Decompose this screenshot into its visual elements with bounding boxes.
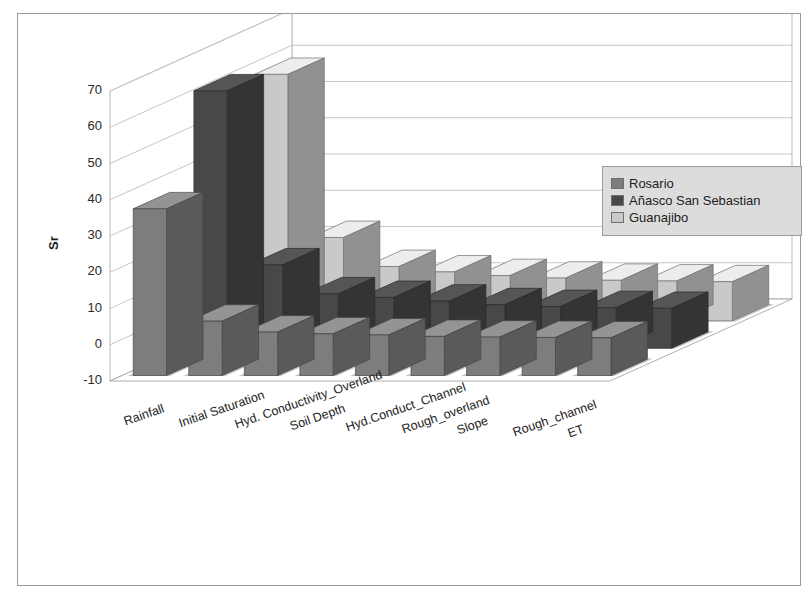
chart-legend: Rosario Añasco San Sebastian Guanajibo: [602, 166, 802, 236]
y-tick-label: 50: [68, 155, 102, 170]
y-tick-label: 70: [68, 82, 102, 97]
legend-swatch-icon: [611, 195, 624, 206]
legend-item[interactable]: Rosario: [611, 176, 793, 191]
chart-frame: Relative sensitivity Coefficient Runoff …: [17, 13, 801, 586]
legend-item-label: Guanajibo: [629, 210, 688, 225]
legend-item[interactable]: Guanajibo: [611, 210, 793, 225]
y-tick-label: 30: [68, 227, 102, 242]
y-tick-label: 40: [68, 191, 102, 206]
y-tick-label: -10: [68, 372, 102, 387]
legend-swatch-icon: [611, 212, 624, 223]
bar-0-0: [133, 192, 203, 375]
legend-item-label: Añasco San Sebastian: [629, 193, 761, 208]
legend-item-label: Rosario: [629, 176, 674, 191]
plot-area: [18, 14, 802, 587]
y-tick-label: 20: [68, 263, 102, 278]
y-tick-label: 0: [68, 336, 102, 351]
legend-item[interactable]: Añasco San Sebastian: [611, 193, 793, 208]
y-tick-label: 10: [68, 300, 102, 315]
legend-swatch-icon: [611, 178, 624, 189]
y-tick-label: 60: [68, 118, 102, 133]
